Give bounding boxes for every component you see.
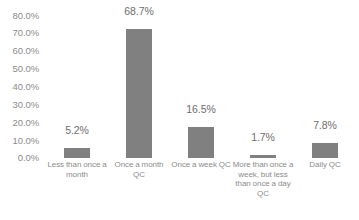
bar-value-label: 7.8% xyxy=(313,119,337,131)
plot-area: 5.2% 68.7% 16.5% 1.7% 7.8% xyxy=(46,8,358,158)
x-axis: Less than once a month Once a month QC O… xyxy=(46,160,358,218)
bar xyxy=(250,155,276,158)
x-axis-category-label: Less than once a month xyxy=(46,160,108,179)
bar xyxy=(312,143,338,158)
bar-group: 68.7% xyxy=(108,8,170,158)
bar-group: 1.7% xyxy=(232,8,294,158)
bar-value-label: 16.5% xyxy=(186,103,215,115)
bar-chart: 80.0% 70.0% 60.0% 50.0% 40.0% 30.0% 20.0… xyxy=(0,0,359,220)
x-axis-category-label: Once a week QC xyxy=(168,160,234,170)
y-axis-tick-label: 30.0% xyxy=(0,100,39,110)
bar xyxy=(188,127,214,158)
bar-group: 16.5% xyxy=(170,8,232,158)
y-axis: 80.0% 70.0% 60.0% 50.0% 40.0% 30.0% 20.0… xyxy=(0,0,44,220)
y-axis-tick-label: 10.0% xyxy=(0,136,39,146)
y-axis-tick-label: 20.0% xyxy=(0,118,39,128)
bar-value-label: 1.7% xyxy=(251,131,275,143)
y-axis-tick-label: 60.0% xyxy=(0,46,39,56)
bar-value-label: 5.2% xyxy=(65,124,89,136)
y-axis-tick-label: 80.0% xyxy=(0,11,39,21)
bar xyxy=(126,29,152,158)
bar xyxy=(64,148,90,158)
bar-value-label: 68.7% xyxy=(124,5,153,17)
x-axis-category-label: Daily QC xyxy=(294,160,356,170)
y-axis-tick-label: 40.0% xyxy=(0,82,39,92)
bar-group: 7.8% xyxy=(294,8,356,158)
y-axis-tick-label: 50.0% xyxy=(0,64,39,74)
y-axis-tick-label: 0.0% xyxy=(0,153,39,163)
x-axis-category-label: Once a month QC xyxy=(108,160,170,179)
y-axis-tick-label: 70.0% xyxy=(0,28,39,38)
bar-group: 5.2% xyxy=(46,8,108,158)
x-axis-category-label: More than once a week, but less than onc… xyxy=(232,160,294,198)
